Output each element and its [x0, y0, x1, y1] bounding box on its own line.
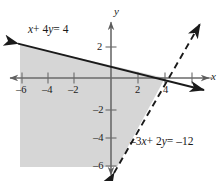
- y-axis-label: y: [114, 6, 119, 17]
- y-tick-label-2: 2: [97, 42, 102, 53]
- x-tick-label-4: 4: [163, 85, 168, 96]
- eq1-rhs: = 4: [53, 23, 68, 35]
- y-tick-label--6: –6: [93, 161, 104, 172]
- equation-label-line2: –3x+ 2y= –12: [130, 136, 193, 148]
- graph-figure: x y –6 –4 –2 2 4 2 –2 –4 –6 x+ 4y= 4 –3x…: [0, 0, 224, 181]
- eq2-rhs: = –12: [167, 135, 194, 147]
- x-tick-label--2: –2: [68, 85, 79, 96]
- x-axis-label: x: [211, 71, 216, 82]
- x-tick-label-2: 2: [135, 85, 140, 96]
- equation-label-line1: x+ 4y= 4: [28, 24, 68, 36]
- eq1-plus-coef: + 4: [33, 23, 48, 35]
- y-tick-label--2: –2: [93, 105, 104, 116]
- x-tick-label--4: –4: [42, 85, 53, 96]
- y-tick-label--4: –4: [93, 133, 104, 144]
- eq2-coef-a: –3: [130, 135, 142, 147]
- eq2-coef-b: + 2: [147, 135, 162, 147]
- x-tick-label--6: –6: [16, 85, 27, 96]
